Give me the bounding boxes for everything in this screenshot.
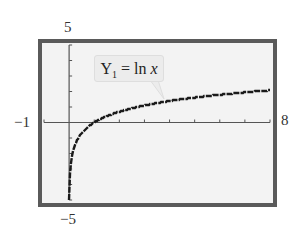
xmin-label: −1 (14, 115, 30, 130)
callout-eq: = ln (117, 60, 150, 77)
ln-x-curve (69, 90, 270, 200)
ymax-label: 5 (64, 20, 72, 35)
function-callout: Y1 = ln x (94, 55, 164, 82)
graph-plot (0, 0, 297, 235)
ymin-label: −5 (60, 212, 76, 227)
callout-var: x (150, 60, 157, 77)
xmax-label: 8 (281, 113, 289, 128)
callout-y: Y (100, 60, 112, 77)
